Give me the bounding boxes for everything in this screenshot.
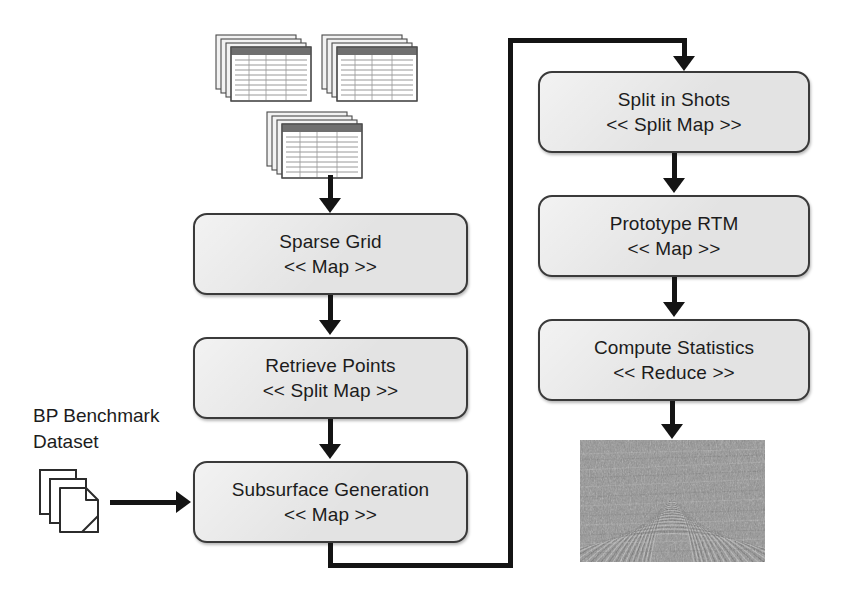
process-stereotype-sparse-grid: << Map >> xyxy=(284,254,377,279)
arrowhead-retrieve-points-to-subsurface xyxy=(319,444,341,459)
process-box-retrieve-points[interactable]: Retrieve Points << Split Map >> xyxy=(193,337,468,419)
connector-sheets-to-sparse-grid xyxy=(328,175,333,200)
arrowhead-sheets-to-sparse-grid xyxy=(319,198,341,213)
process-box-subsurface-generation[interactable]: Subsurface Generation << Map >> xyxy=(193,461,468,543)
process-box-split-in-shots[interactable]: Split in Shots << Split Map >> xyxy=(538,71,810,153)
spreadsheet-stack-icon-3 xyxy=(265,110,369,190)
process-box-sparse-grid[interactable]: Sparse Grid << Map >> xyxy=(193,213,468,295)
arrowhead-split-in-shots-to-prototype-rtm xyxy=(663,178,685,193)
arrowhead-compute-statistics-to-result xyxy=(661,424,683,439)
arrowhead-dataset-to-subsurface xyxy=(176,491,191,513)
connector-prototype-rtm-to-compute-statistics xyxy=(672,277,677,305)
process-title-retrieve-points: Retrieve Points xyxy=(265,353,395,378)
dataset-label: BP Benchmark Dataset xyxy=(33,403,193,455)
arrowhead-sparse-grid-to-retrieve-points xyxy=(319,320,341,335)
process-box-compute-statistics[interactable]: Compute Statistics << Reduce >> xyxy=(538,319,810,401)
diagram-canvas: Sparse Grid << Map >> Retrieve Points <<… xyxy=(0,0,848,602)
arrowhead-prototype-rtm-to-compute-statistics xyxy=(663,302,685,317)
seismic-image xyxy=(580,440,765,562)
document-stack-icon xyxy=(36,466,116,544)
connector-sparse-grid-to-retrieve-points xyxy=(328,295,333,323)
process-title-compute-statistics: Compute Statistics xyxy=(594,335,754,360)
connector-dataset-to-subsurface xyxy=(110,500,178,505)
connector-subsurface-up xyxy=(508,38,513,568)
connector-split-in-shots-to-prototype-rtm xyxy=(672,153,677,181)
process-title-subsurface-generation: Subsurface Generation xyxy=(232,477,430,502)
connector-subsurface-right xyxy=(328,563,513,568)
arrowhead-subsurface-to-split-in-shots xyxy=(673,56,695,71)
process-stereotype-prototype-rtm: << Map >> xyxy=(628,236,721,261)
process-title-sparse-grid: Sparse Grid xyxy=(279,229,381,254)
spreadsheet-stack-icon-2 xyxy=(320,33,424,113)
spreadsheet-stack-icon-1 xyxy=(214,33,318,113)
process-stereotype-retrieve-points: << Split Map >> xyxy=(263,378,399,403)
connector-subsurface-top-right xyxy=(508,38,687,43)
process-stereotype-compute-statistics: << Reduce >> xyxy=(613,360,735,385)
connector-retrieve-points-to-subsurface xyxy=(328,419,333,447)
process-stereotype-subsurface-generation: << Map >> xyxy=(284,502,377,527)
process-title-prototype-rtm: Prototype RTM xyxy=(610,211,739,236)
process-title-split-in-shots: Split in Shots xyxy=(618,87,730,112)
process-box-prototype-rtm[interactable]: Prototype RTM << Map >> xyxy=(538,195,810,277)
process-stereotype-split-in-shots: << Split Map >> xyxy=(606,112,742,137)
